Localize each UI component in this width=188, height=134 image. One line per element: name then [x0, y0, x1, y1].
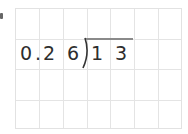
division-vinculum [86, 38, 133, 40]
dividend-digit: 1 [89, 43, 105, 63]
divisor-digit: 0 [18, 43, 34, 63]
divisor-digit: 2 [41, 43, 57, 63]
grid-paper [15, 8, 182, 129]
grid-hline [16, 69, 181, 70]
divisor-digit: 6 [65, 43, 81, 63]
cropped-label-mark [0, 13, 3, 19]
grid-hline [16, 100, 181, 101]
dividend-digit: 3 [113, 43, 129, 63]
